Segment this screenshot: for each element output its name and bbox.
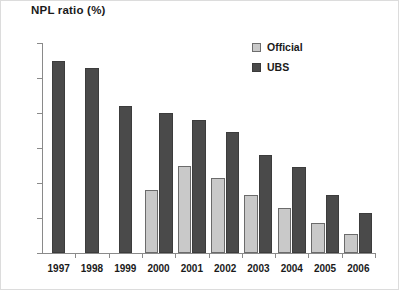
x-tick-label: 2004	[281, 263, 303, 274]
x-tick-label: 2000	[147, 263, 169, 274]
bar-official	[178, 166, 192, 254]
bar-ubs	[259, 155, 273, 253]
bar-ubs	[326, 195, 340, 253]
x-tick-mark	[209, 253, 210, 258]
x-tick-label: 1997	[48, 263, 70, 274]
bar-ubs	[359, 213, 373, 253]
x-tick-mark	[175, 253, 176, 258]
y-tick-mark	[37, 183, 42, 184]
bar-ubs	[85, 68, 99, 254]
chart-title: NPL ratio (%)	[31, 4, 106, 16]
bar-ubs	[159, 113, 173, 253]
bar-official	[244, 195, 258, 253]
y-tick-mark	[37, 253, 42, 254]
x-tick-mark	[75, 253, 76, 258]
plot-area: 6050403020100 19971998199920002001200220…	[42, 43, 375, 253]
x-tick-label: 1999	[114, 263, 136, 274]
x-tick-mark	[242, 253, 243, 258]
y-tick-mark	[37, 43, 42, 44]
y-tick-mark	[37, 148, 42, 149]
y-tick-mark	[37, 218, 42, 219]
bar-official	[278, 208, 292, 254]
x-tick-mark	[342, 253, 343, 258]
x-tick-label: 2001	[181, 263, 203, 274]
y-axis-line	[42, 43, 43, 254]
bar-ubs	[192, 120, 206, 253]
bar-ubs	[292, 167, 306, 253]
x-tick-mark	[142, 253, 143, 258]
x-tick-mark	[375, 253, 376, 258]
bar-ubs	[52, 61, 66, 254]
x-tick-mark	[275, 253, 276, 258]
y-tick-mark	[37, 113, 42, 114]
x-tick-mark	[109, 253, 110, 258]
x-tick-label: 1998	[81, 263, 103, 274]
x-tick-mark	[308, 253, 309, 258]
bar-official	[344, 234, 358, 253]
x-tick-label: 2002	[214, 263, 236, 274]
bar-official	[311, 223, 325, 253]
bar-official	[211, 178, 225, 253]
x-tick-label: 2003	[247, 263, 269, 274]
bar-official	[145, 190, 159, 253]
bar-ubs	[226, 132, 240, 253]
x-tick-label: 2005	[314, 263, 336, 274]
x-tick-label: 2006	[347, 263, 369, 274]
y-tick-mark	[37, 78, 42, 79]
bar-ubs	[119, 106, 133, 253]
